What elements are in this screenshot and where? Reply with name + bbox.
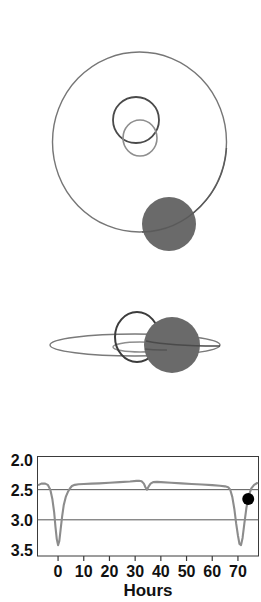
x-tick-label-4: 40 [152,563,170,580]
edge-on-orbit-panel [0,288,261,438]
x-tick-label-7: 70 [229,563,247,580]
y-tick-label-3: 3.5 [11,542,33,559]
x-tick-label-2: 20 [101,563,119,580]
x-tick-labels: 010203040506070 [54,563,247,580]
observation-point [242,493,254,505]
primary-body-disk [142,197,196,251]
face-on-orbit-panel [0,0,261,290]
y-tick-label-1: 2.5 [11,482,33,499]
x-tick-marks [58,556,238,561]
plot-frame [38,457,259,557]
edge-on-orbit-svg [0,288,261,438]
y-tick-label-2: 3.0 [11,512,33,529]
y-tick-label-0: 2.0 [11,452,33,469]
gridlines [38,490,259,520]
x-tick-label-5: 50 [178,563,196,580]
x-tick-label-6: 60 [203,563,221,580]
inner-orbit-ellipse-lower [123,120,157,156]
light-curve-svg: 2.02.53.03.5 010203040506070 Hours [0,438,261,602]
observation-markers [242,493,254,505]
light-curve-panel: 2.02.53.03.5 010203040506070 Hours [0,438,261,602]
y-tick-labels: 2.02.53.03.5 [11,452,33,559]
light-curve-line [39,481,257,545]
x-axis-title: Hours [123,581,172,600]
x-tick-label-3: 30 [126,563,144,580]
x-tick-label-0: 0 [54,563,63,580]
face-on-orbit-svg [0,0,261,290]
x-tick-label-1: 10 [75,563,93,580]
eclipse-figure: 2.02.53.03.5 010203040506070 Hours [0,0,261,602]
